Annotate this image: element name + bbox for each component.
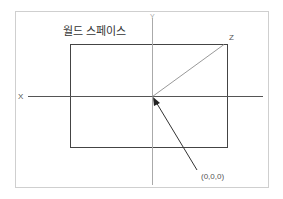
origin-arrow-line <box>156 102 197 170</box>
origin-arrowhead <box>153 97 160 106</box>
z-axis-label: Z <box>229 33 234 42</box>
z-axis <box>153 45 225 97</box>
x-axis-label: X <box>18 92 23 101</box>
diagram-title: 월드 스페이스 <box>63 22 126 38</box>
origin-label: (0,0,0) <box>201 172 224 181</box>
y-axis-label: Y <box>150 13 155 20</box>
world-space-diagram <box>0 0 283 199</box>
